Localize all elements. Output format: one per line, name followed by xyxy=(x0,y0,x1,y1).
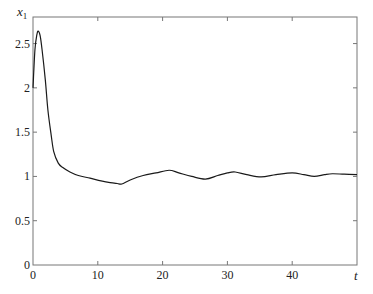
data-line-x1 xyxy=(33,31,357,184)
x-tick-label: 20 xyxy=(157,268,169,282)
x-tick-label: 10 xyxy=(92,268,104,282)
x-tick-label: 30 xyxy=(221,268,233,282)
y-tick-label: 0.5 xyxy=(15,214,30,228)
line-chart: 010203040 00.511.522.5 x1 t xyxy=(0,0,373,294)
y-tick-label: 0 xyxy=(24,258,30,272)
x-tick-labels: 010203040 xyxy=(30,268,298,282)
y-tick-label: 2.5 xyxy=(15,37,30,51)
y-tick-label: 1 xyxy=(24,169,30,183)
x-tick-label: 40 xyxy=(286,268,298,282)
y-tick-labels: 00.511.522.5 xyxy=(15,37,30,272)
y-tick-label: 1.5 xyxy=(15,125,30,139)
x-tick-label: 0 xyxy=(30,268,36,282)
y-axis-label: x1 xyxy=(16,4,27,21)
axis-ticks xyxy=(33,17,357,265)
plot-frame xyxy=(33,17,357,265)
x-axis-label: t xyxy=(354,268,358,283)
y-tick-label: 2 xyxy=(24,81,30,95)
